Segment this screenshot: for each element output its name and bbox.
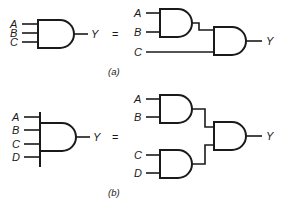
wire-b-and1-to-and3: [192, 109, 214, 127]
part-a-left-gate: A B C Y: [9, 18, 99, 48]
label-b-right-C: C: [134, 149, 142, 161]
label-b-left-Y: Y: [93, 131, 101, 143]
label-b-right-A: A: [133, 93, 141, 105]
and-gate-diagram: A B C Y = A B C Y (a) A B C D Y: [0, 0, 284, 204]
caption-b: (b): [108, 187, 120, 198]
caption-a: (a): [108, 66, 120, 77]
equals-sign-b: =: [112, 131, 118, 143]
and-gate-icon: [214, 122, 246, 150]
and-gate-icon: [160, 95, 192, 123]
label-a-left-Y: Y: [91, 28, 99, 40]
part-b-right-circuit: A B C D Y: [133, 93, 274, 179]
part-b-left-gate: A B C D Y: [11, 111, 101, 167]
label-b-right-B: B: [134, 111, 141, 123]
label-b-left-B: B: [12, 124, 19, 136]
label-a-right-A: A: [133, 7, 141, 19]
label-b-right-Y: Y: [266, 130, 274, 142]
and-gate-icon: [38, 20, 74, 48]
label-b-right-D: D: [134, 167, 142, 179]
label-a-right-Y: Y: [266, 35, 274, 47]
and-gate-icon: [214, 27, 246, 55]
and-gate-icon: [40, 123, 76, 151]
part-a-right-circuit: A B C Y: [133, 7, 274, 58]
wire-b-and2-to-and3: [192, 145, 214, 164]
label-b-left-C: C: [12, 138, 20, 150]
label-a-left-C: C: [10, 36, 18, 48]
label-b-left-A: A: [11, 111, 19, 123]
and-gate-icon: [160, 150, 192, 178]
equals-sign-a: =: [112, 28, 118, 40]
and-gate-icon: [160, 9, 192, 37]
label-b-left-D: D: [12, 151, 20, 163]
label-a-right-B: B: [134, 26, 141, 38]
label-a-right-C: C: [134, 46, 142, 58]
wire-a-and1-to-and2: [192, 23, 214, 30]
